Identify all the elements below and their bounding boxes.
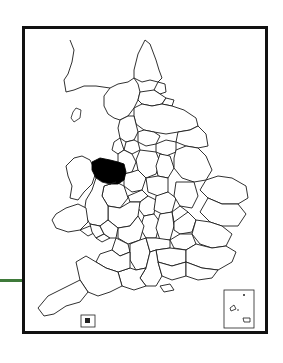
county-cambridgeshire[interactable] (174, 182, 198, 208)
county-buckinghamshire[interactable] (156, 212, 174, 240)
county-northamptonshire[interactable] (154, 192, 176, 214)
counties-north (104, 40, 208, 156)
county-isle-of-wight[interactable] (160, 284, 174, 292)
counties-midlands (102, 146, 248, 248)
county-dyfed[interactable] (52, 204, 88, 232)
county-cornwall[interactable] (38, 280, 88, 316)
county-north-yorkshire[interactable] (134, 104, 198, 134)
county-lancashire[interactable] (118, 116, 138, 142)
counties-south (38, 234, 236, 316)
inset-channel-island (85, 318, 90, 323)
inset-island-b (243, 318, 250, 322)
county-scotland-border-edge (64, 40, 110, 92)
inset-island-dot-2 (237, 309, 239, 311)
isle-of-man (71, 108, 81, 122)
county-south-yorkshire[interactable] (156, 140, 176, 156)
england-wales-county-map (0, 0, 283, 363)
county-nottinghamshire[interactable] (156, 154, 174, 178)
county-lincolnshire[interactable] (174, 146, 212, 182)
county-northumberland[interactable] (134, 40, 162, 82)
inset-island-dot (243, 294, 245, 296)
